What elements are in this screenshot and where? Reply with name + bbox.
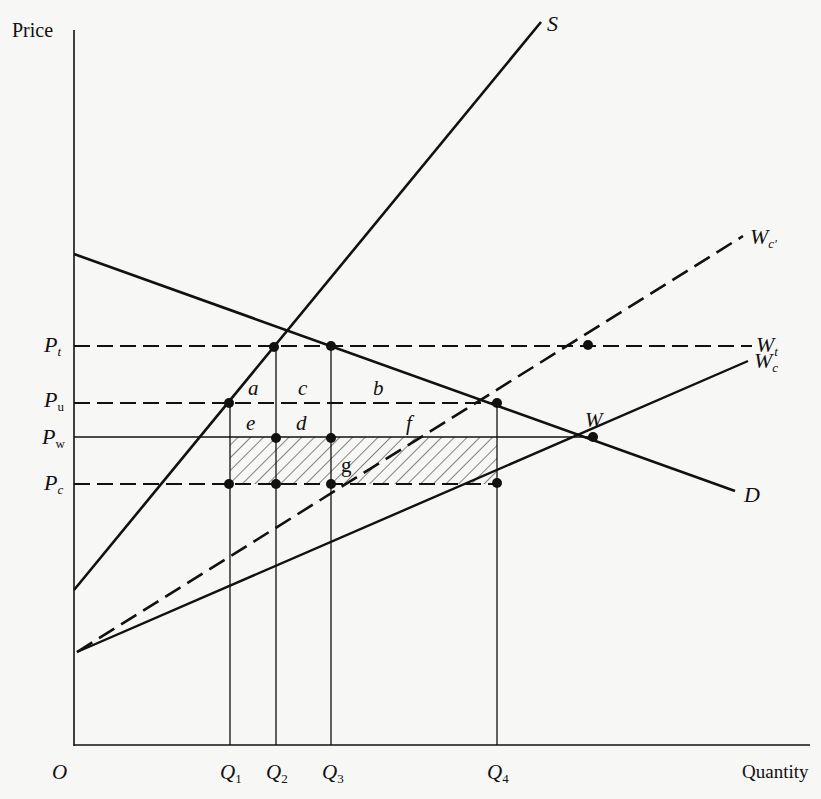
pw-sub: w bbox=[55, 436, 64, 451]
pt-base: P bbox=[44, 332, 57, 357]
curve-label-wc-prime: Wc' bbox=[750, 226, 777, 250]
hatched-area bbox=[230, 437, 497, 484]
q4-base: Q bbox=[487, 760, 502, 784]
wc-sub: c bbox=[772, 360, 778, 375]
quantity-label-q1: Q1 bbox=[220, 762, 242, 785]
x-axis-label: Quantity bbox=[742, 762, 809, 781]
supply-curve bbox=[74, 22, 541, 590]
pw-base: P bbox=[42, 424, 55, 449]
wt-base: W bbox=[756, 332, 774, 357]
wt-sub: t bbox=[774, 344, 778, 359]
quantity-label-q3: Q3 bbox=[322, 762, 344, 785]
pu-sub: u bbox=[57, 399, 64, 414]
curve-label-s: S bbox=[547, 13, 558, 35]
y-axis-label: Price bbox=[12, 20, 53, 40]
origin-label: O bbox=[52, 762, 67, 783]
price-label-pt: Pt bbox=[44, 334, 61, 358]
pc-sub: c bbox=[57, 482, 63, 497]
wc-prime-curve bbox=[77, 236, 743, 652]
point-label-w: W bbox=[585, 410, 603, 431]
diagram-graphics bbox=[0, 0, 821, 799]
area-label-g: g bbox=[341, 455, 352, 476]
wc-prime-sub: c' bbox=[768, 236, 777, 251]
q3-base: Q bbox=[322, 760, 337, 784]
area-label-c: c bbox=[298, 378, 307, 399]
curve-label-d: D bbox=[744, 484, 760, 506]
diagram-canvas: Price Quantity O Pt Pu Pw Pc Q1 Q2 Q3 Q4… bbox=[0, 0, 821, 799]
quantity-label-q4: Q4 bbox=[487, 762, 509, 785]
price-label-pw: Pw bbox=[42, 426, 65, 450]
q1-sub: 1 bbox=[235, 771, 242, 786]
q1-base: Q bbox=[220, 760, 235, 784]
pt-sub: t bbox=[57, 344, 61, 359]
price-label-pu: Pu bbox=[44, 389, 64, 413]
pc-base: P bbox=[44, 470, 57, 495]
area-label-a: a bbox=[248, 378, 259, 399]
area-label-f: f bbox=[406, 413, 412, 434]
q3-sub: 3 bbox=[337, 771, 344, 786]
area-label-b: b bbox=[373, 378, 384, 399]
q4-sub: 4 bbox=[502, 771, 509, 786]
price-label-pc: Pc bbox=[44, 472, 63, 496]
wc-prime-base: W bbox=[750, 224, 768, 249]
area-label-d: d bbox=[296, 413, 307, 434]
quantity-label-q2: Q2 bbox=[266, 762, 288, 785]
curve-label-wt: Wt bbox=[756, 334, 778, 358]
q2-base: Q bbox=[266, 760, 281, 784]
q2-sub: 2 bbox=[281, 771, 288, 786]
area-label-e: e bbox=[246, 413, 255, 434]
pu-base: P bbox=[44, 387, 57, 412]
wc-curve bbox=[77, 361, 748, 652]
